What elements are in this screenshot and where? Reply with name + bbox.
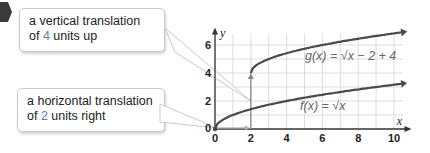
x-tick-label: 6 (319, 132, 325, 144)
x-tick-label: 8 (355, 132, 361, 144)
f-function-label: f(x) = √x (300, 99, 346, 113)
y-tick-label: 4 (205, 67, 212, 79)
y-axis-arrow-icon (212, 27, 218, 34)
y-tick-label: 2 (205, 95, 211, 107)
vertical-arrowhead-icon (248, 73, 254, 79)
f-curve-arrow-icon (401, 80, 407, 88)
y-axis-label: y (219, 26, 226, 40)
x-tick-label: 2 (248, 132, 254, 144)
y-tick-label: 6 (205, 39, 211, 51)
y-tick-label: 0 (205, 122, 211, 134)
x-tick-label: 10 (388, 132, 400, 144)
f-start-point (213, 127, 217, 131)
horizontal-arrowhead-icon (245, 126, 250, 131)
g-function-label: g(x) = √x − 2 + 4 (305, 49, 396, 63)
x-tick-label: 0 (212, 132, 218, 144)
g-curve-arrow-icon (401, 28, 407, 36)
x-tick-label: 4 (284, 132, 291, 144)
function-graph: 02468100246xyg(x) = √x − 2 + 4f(x) = √x (0, 0, 430, 153)
x-axis-arrow-icon (405, 126, 412, 132)
x-axis-label: x (396, 114, 403, 128)
